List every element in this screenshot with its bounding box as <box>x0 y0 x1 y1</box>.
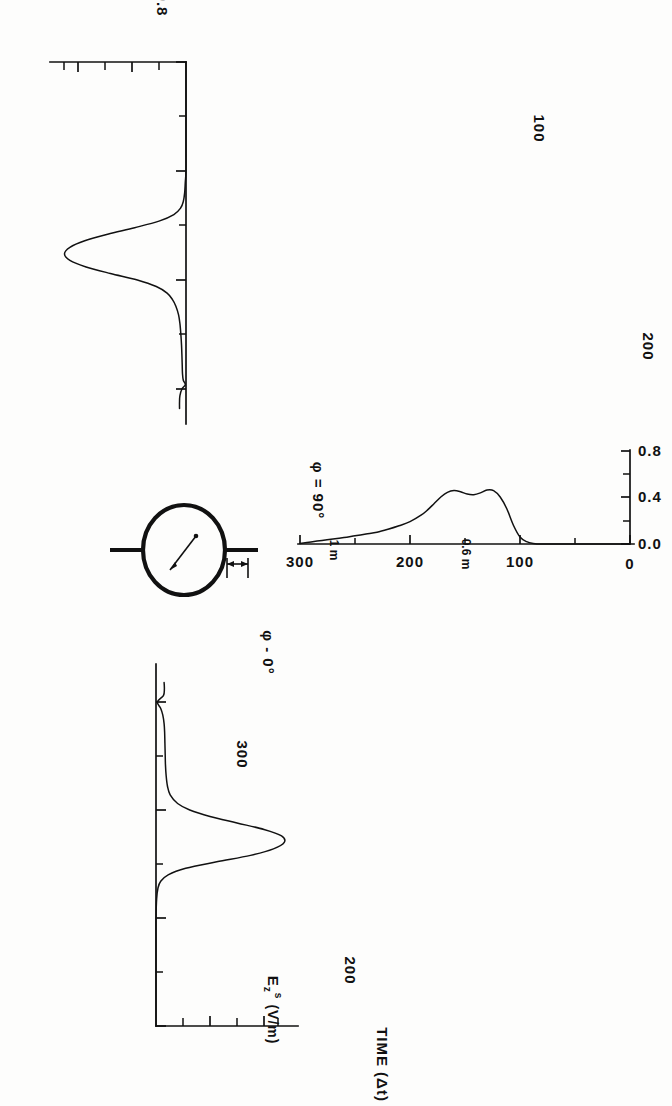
phi90-field-ticks <box>621 451 630 544</box>
phi0-xtick-300: 300 <box>234 740 251 768</box>
chart-phi0: 0 100 200 300 0.0 0.4 0.8 TIME (Δt) Ezs … <box>118 622 368 1072</box>
phi90-angle-annotation: φ = 90° <box>238 492 278 602</box>
time-axis-title: TIME (Δt) <box>374 1027 391 1102</box>
phi0-xtick-200: 200 <box>342 956 359 984</box>
chart-phi180: 0 100 200 300 0.0 0.4 0.8 φ=180° <box>18 22 238 442</box>
field-sub: z <box>262 987 273 993</box>
field-axis-title: Ezs (V/m) <box>262 976 284 1045</box>
phi180-field-ticks <box>64 62 159 72</box>
phi0-angle-label: φ - 0° <box>260 630 277 674</box>
phi90-xtick-300: 300 <box>286 553 314 570</box>
curve-phi90 <box>300 490 630 544</box>
phi90-ytick-04: 0.4 <box>638 488 662 505</box>
phi90-xtick-100: 100 <box>506 553 534 570</box>
field-units: (V/m) <box>265 1004 281 1044</box>
radius-arrow <box>170 534 198 570</box>
phi90-xtick-200: 200 <box>396 553 424 570</box>
curve-phi180 <box>65 62 187 409</box>
phi180-xtick-100: 100 <box>531 114 548 142</box>
phi90-ytick-00: 0.0 <box>638 535 662 552</box>
curve-phi0 <box>156 683 285 1026</box>
field-symbol: E <box>265 976 282 987</box>
chart-phi90: 300 200 100 0 0.8 0.4 0.0 <box>278 432 668 592</box>
phi0-field-ticks <box>183 1016 278 1026</box>
svg-text:Ezs (V/m): Ezs (V/m) <box>262 976 284 1045</box>
phi90-xtick-0: 0 <box>625 555 634 572</box>
phi90-ytick-08: 0.8 <box>638 442 662 459</box>
cylinder-circle <box>143 505 225 595</box>
phi180-ytick-08: 0.8 <box>154 0 171 16</box>
figure-canvas: 0 100 200 300 0.0 0.4 0.8 φ=180° 1 m <box>0 0 672 1106</box>
phi180-xtick-200: 200 <box>640 332 657 360</box>
